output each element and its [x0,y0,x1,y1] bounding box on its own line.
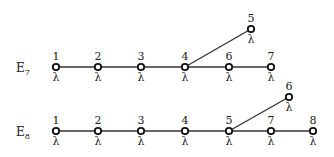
node-circle [95,128,101,134]
node-index: 2 [95,114,102,127]
node-weight: λ [268,71,275,84]
diagram-e8: E81λ2λ3λ4λ5λ7λ8λ6λ [16,80,317,148]
node-index: 3 [138,50,145,63]
node-index: 6 [226,50,233,63]
diagram-e7: E71λ2λ3λ4λ6λ7λ5λ [16,12,275,84]
node-weight: λ [53,71,60,84]
node-circle [138,128,144,134]
node-weight: λ [268,135,275,148]
node-circle [310,128,316,134]
node-index: 5 [226,114,233,127]
node-circle [248,26,254,32]
node-weight: λ [182,71,189,84]
node-circle [138,64,144,70]
node-index: 8 [310,114,317,127]
node-weight: λ [95,71,102,84]
node-circle [226,128,232,134]
node-weight: λ [182,135,189,148]
node-index: 1 [53,50,60,63]
edge [185,29,251,67]
node-weight: λ [53,135,60,148]
node-weight: λ [226,71,233,84]
node-circle [268,128,274,134]
node-circle [53,128,59,134]
node-circle [226,64,232,70]
edge [229,97,289,131]
node-index: 2 [95,50,102,63]
node-circle [95,64,101,70]
node-index: 5 [248,12,255,25]
node-circle [182,128,188,134]
node-weight: λ [286,101,293,114]
node-index: 6 [286,80,293,93]
node-circle [182,64,188,70]
node-circle [268,64,274,70]
diagram-label: E8 [16,125,30,141]
diagram-label: E7 [16,61,30,77]
node-index: 3 [138,114,145,127]
dynkin-diagrams: E71λ2λ3λ4λ6λ7λ5λE81λ2λ3λ4λ5λ7λ8λ6λ [0,0,334,157]
node-weight: λ [248,33,255,46]
node-index: 4 [182,114,189,127]
node-weight: λ [138,135,145,148]
node-weight: λ [310,135,317,148]
node-index: 7 [268,50,275,63]
node-weight: λ [226,135,233,148]
node-circle [53,64,59,70]
node-weight: λ [138,71,145,84]
node-weight: λ [95,135,102,148]
node-index: 4 [182,50,189,63]
node-index: 7 [268,114,275,127]
node-index: 1 [53,114,60,127]
node-circle [286,94,292,100]
